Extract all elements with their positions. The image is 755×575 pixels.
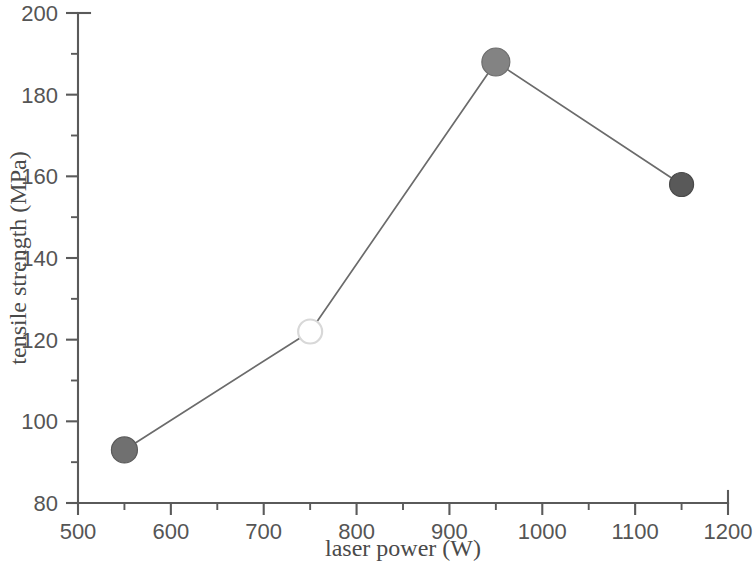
- x-tick-label: 1000: [518, 519, 567, 544]
- x-tick-label: 700: [245, 519, 282, 544]
- line-chart-canvas: 80100120140160180200 5006007008009001000…: [0, 0, 755, 575]
- data-point-marker-filled: [482, 48, 510, 76]
- data-point-marker-filled: [111, 437, 137, 463]
- x-tick-label: 600: [152, 519, 189, 544]
- x-tick-label: 1100: [611, 519, 658, 544]
- data-point-marker-open: [298, 320, 322, 344]
- y-tick-label: 180: [21, 83, 58, 108]
- x-tick-label: 1200: [704, 519, 753, 544]
- x-tick-label: 500: [60, 519, 97, 544]
- data-point-marker-filled: [670, 173, 694, 197]
- y-tick-label: 200: [21, 1, 58, 26]
- y-tick-label: 80: [34, 491, 58, 516]
- y-tick-label: 100: [21, 409, 58, 434]
- chart-figure: 80100120140160180200 5006007008009001000…: [0, 0, 755, 575]
- x-axis-title: laser power (W): [325, 535, 481, 561]
- chart-background: [0, 0, 755, 575]
- y-axis-title: tensile strength (MPa): [5, 151, 31, 364]
